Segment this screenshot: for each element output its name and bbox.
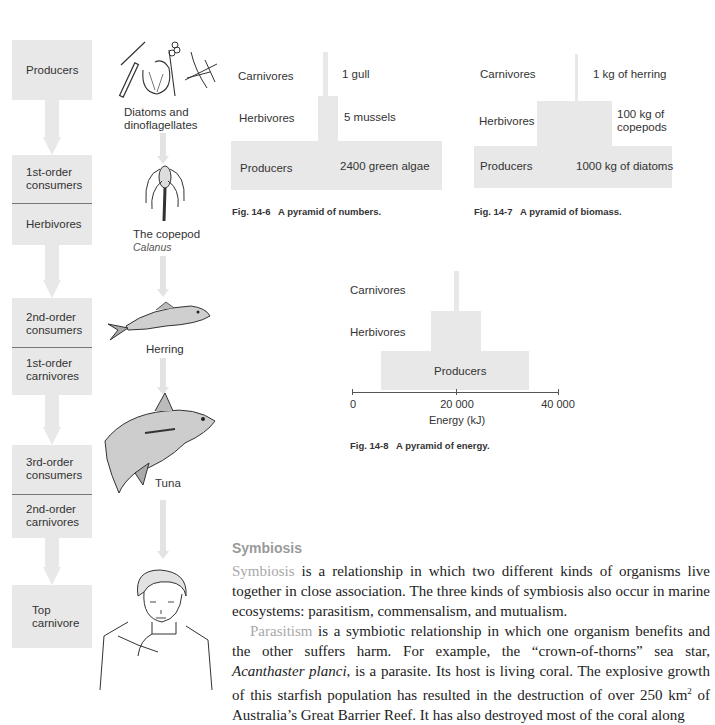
axis-tick <box>558 389 559 395</box>
bar-carnivores <box>454 271 459 311</box>
level-label: Herbivores <box>239 112 295 125</box>
level-label: Herbivores <box>479 115 535 128</box>
arrow-down-icon <box>43 567 61 585</box>
copepod-illustration-icon <box>140 163 190 225</box>
bar-herbivores <box>537 101 612 146</box>
tick-label: 20 000 <box>440 398 474 410</box>
level-label: Producers <box>434 365 486 378</box>
paragraph-text: is a relationship in which two different… <box>232 563 710 619</box>
arrow-down-icon <box>43 280 61 298</box>
box-label-third-order-consumers: 3rd-order consumers <box>12 447 92 491</box>
level-value: 100 kg of copepods <box>617 108 667 134</box>
level-value: 1000 kg of diatoms <box>576 160 673 173</box>
arrow-down-icon <box>43 137 61 155</box>
level-label: Carnivores <box>480 68 536 81</box>
bar-herbivores <box>431 311 481 351</box>
term-parasitism: Parasitism <box>250 623 313 639</box>
species-name: Acanthaster planci <box>232 663 347 679</box>
level-box-top-carnivore: Top carnivore <box>12 585 92 648</box>
bar-carnivores <box>575 54 578 101</box>
herring-label: Herring <box>146 343 184 356</box>
level-box-producers: Producers <box>12 40 92 100</box>
arrow-shaft <box>45 100 59 138</box>
bar-carnivores <box>323 52 328 96</box>
term-symbiosis: Symbiosis <box>232 563 295 579</box>
arrow-shaft <box>160 500 166 552</box>
arrow-shaft <box>160 133 166 157</box>
box-label-producers: Producers <box>12 40 92 100</box>
box-label-herbivores: Herbivores <box>12 204 92 244</box>
section-heading: Symbiosis <box>232 540 302 556</box>
bar-herbivores <box>318 96 338 141</box>
herring-illustration-icon <box>106 298 211 343</box>
level-label: Producers <box>480 160 532 173</box>
arrow-shaft <box>45 395 59 428</box>
level-box-third-order: 3rd-order consumers 2nd-order carnivores <box>12 445 92 538</box>
box-label-first-order-carnivores: 1st-order carnivores <box>12 348 92 392</box>
arrow-down-icon <box>157 551 169 559</box>
body-text: Symbiosis is a relationship in which two… <box>232 561 710 725</box>
arrow-shaft <box>160 256 166 290</box>
box-label-second-order-consumers: 2nd-order consumers <box>12 302 92 346</box>
level-label: Carnivores <box>350 284 406 297</box>
box-label-second-order-carnivores: 2nd-order carnivores <box>12 495 92 537</box>
figure-caption: Fig. 14-8 A pyramid of energy. <box>350 440 490 451</box>
level-box-second-order: 2nd-order consumers 1st-order carnivores <box>12 298 92 395</box>
level-label: Carnivores <box>238 70 294 83</box>
level-value: 1 kg of herring <box>593 68 667 81</box>
human-illustration-icon <box>98 566 213 690</box>
diatoms-label: Diatoms and dinoflagellates <box>124 106 198 132</box>
copepod-label: The copepod <box>133 228 200 241</box>
level-box-first-order: 1st-order consumers Herbivores <box>12 155 92 245</box>
arrow-down-icon <box>157 289 169 297</box>
arrow-shaft <box>45 538 59 568</box>
tick-label: 0 <box>350 398 356 410</box>
arrow-shaft <box>160 358 166 388</box>
paragraph-parasitism: Parasitism is a symbiotic relationship i… <box>232 621 710 725</box>
figure-caption: Fig. 14-6 A pyramid of numbers. <box>232 206 381 217</box>
level-label: Herbivores <box>350 326 406 339</box>
tick-label: 40 000 <box>541 398 575 410</box>
level-value: 1 gull <box>342 68 370 81</box>
level-value: 2400 green algae <box>340 160 430 173</box>
axis-tick <box>456 389 457 395</box>
box-label-top-carnivore: Top carnivore <box>12 585 92 648</box>
diatom-illustration-icon <box>115 40 225 105</box>
level-label: Producers <box>240 162 292 175</box>
tuna-label: Tuna <box>155 477 181 490</box>
box-label-first-order-consumers: 1st-order consumers <box>12 159 92 199</box>
axis-tick <box>352 389 353 395</box>
axis-label: Energy (kJ) <box>429 414 485 426</box>
level-value: 5 mussels <box>344 111 396 124</box>
paragraph-symbiosis: Symbiosis is a relationship in which two… <box>232 561 710 621</box>
arrow-shaft <box>45 245 59 281</box>
figure-caption: Fig. 14-7 A pyramid of biomass. <box>474 206 622 217</box>
arrow-down-icon <box>43 427 61 445</box>
copepod-genus-label: Calanus <box>133 241 172 254</box>
